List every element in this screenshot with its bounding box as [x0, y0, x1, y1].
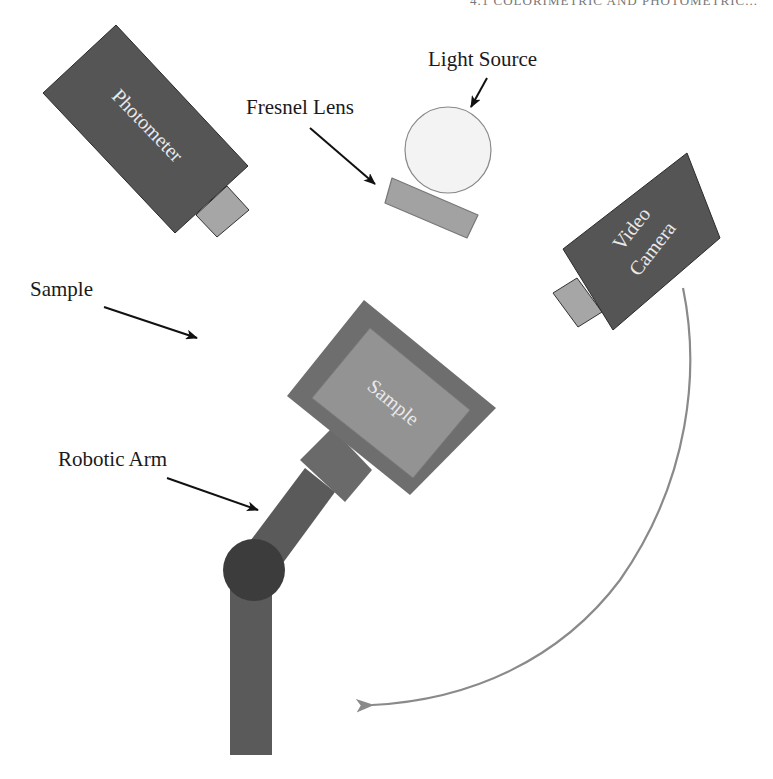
arrow-fresnel-lens — [310, 128, 375, 184]
robotic-arm — [223, 428, 372, 755]
label-robotic-arm: Robotic Arm — [58, 447, 167, 471]
arrow-sample — [104, 307, 197, 338]
lab-setup-diagram: Photometer Video Camera Sample Light Sou… — [0, 0, 773, 779]
video-camera: Video Camera — [553, 153, 720, 330]
light-source — [385, 107, 491, 238]
arrow-light-source — [471, 78, 487, 107]
photometer: Photometer — [43, 25, 249, 237]
callout-light-source: Light Source — [428, 47, 537, 107]
callout-fresnel-lens: Fresnel Lens — [246, 95, 375, 184]
label-light-source: Light Source — [428, 47, 537, 71]
callout-robotic-arm: Robotic Arm — [58, 447, 258, 510]
label-fresnel-lens: Fresnel Lens — [246, 95, 354, 119]
callout-sample: Sample — [30, 277, 197, 338]
arrow-robotic-arm — [167, 478, 258, 510]
light-bulb — [405, 107, 491, 193]
label-sample: Sample — [30, 277, 93, 301]
arm-joint — [223, 539, 285, 601]
